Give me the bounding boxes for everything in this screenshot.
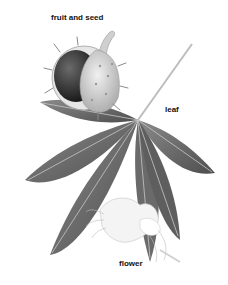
botanical-illustration xyxy=(0,0,228,285)
label-fruit-and-seed: fruit and seed xyxy=(51,13,103,23)
label-leaf: leaf xyxy=(165,105,179,115)
label-flower: flower xyxy=(119,259,143,269)
